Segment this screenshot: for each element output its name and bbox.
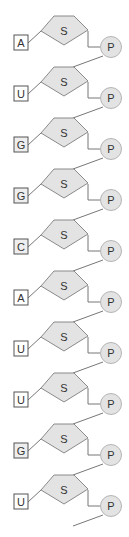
phosphate-label: P	[107, 143, 114, 155]
sugar-phosphate-bond	[88, 286, 100, 302]
phosphodiester-bond	[73, 515, 103, 526]
sugar-label: S	[60, 25, 67, 37]
phosphodiester-bond	[73, 56, 103, 67]
sugar-phosphate-bond	[88, 490, 100, 506]
glycosidic-bond	[28, 235, 41, 247]
base-label: G	[17, 139, 26, 151]
nucleotide-unit: ASP	[14, 16, 122, 67]
phosphate-label: P	[107, 500, 114, 512]
sugar-phosphate-bond	[88, 82, 100, 98]
phosphodiester-bond	[73, 464, 103, 475]
sugar-label: S	[60, 484, 67, 496]
nucleotide-unit: USP	[14, 67, 122, 118]
base-label: A	[17, 292, 25, 304]
sugar-label: S	[60, 178, 67, 190]
phosphodiester-bond	[73, 209, 103, 220]
nucleotide-unit: CSP	[14, 220, 122, 271]
phosphodiester-bond	[73, 107, 103, 118]
phosphate-label: P	[107, 296, 114, 308]
glycosidic-bond	[28, 82, 41, 94]
base-label: A	[17, 37, 25, 49]
phosphodiester-bond	[73, 158, 103, 169]
sugar-label: S	[60, 433, 67, 445]
glycosidic-bond	[28, 439, 41, 451]
phosphodiester-bond	[73, 413, 103, 424]
base-label: U	[17, 394, 25, 406]
nucleotide-unit: USP	[14, 322, 122, 373]
glycosidic-bond	[28, 133, 41, 145]
base-label: G	[17, 190, 26, 202]
phosphodiester-bond	[73, 362, 103, 373]
sugar-label: S	[60, 76, 67, 88]
base-label: G	[17, 445, 26, 457]
glycosidic-bond	[28, 286, 41, 298]
phosphate-label: P	[107, 245, 114, 257]
glycosidic-bond	[28, 388, 41, 400]
sugar-phosphate-bond	[88, 337, 100, 353]
sugar-phosphate-bond	[88, 184, 100, 200]
glycosidic-bond	[28, 337, 41, 349]
sugar-label: S	[60, 229, 67, 241]
nucleotide-unit: USP	[14, 373, 122, 424]
nucleotide-unit: GSP	[14, 118, 122, 169]
sugar-label: S	[60, 280, 67, 292]
phosphate-label: P	[107, 41, 114, 53]
sugar-label: S	[60, 127, 67, 139]
sugar-phosphate-bond	[88, 235, 100, 251]
nucleotide-unit: ASP	[14, 271, 122, 322]
phosphate-label: P	[107, 347, 114, 359]
nucleotide-unit: USP	[14, 475, 122, 526]
base-label: C	[17, 241, 25, 253]
sugar-phosphate-bond	[88, 388, 100, 404]
base-label: U	[17, 496, 25, 508]
nucleotide-unit: GSP	[14, 169, 122, 220]
base-label: U	[17, 88, 25, 100]
sugar-phosphate-bond	[88, 133, 100, 149]
phosphate-label: P	[107, 398, 114, 410]
rna-strand-diagram: ASPUSPGSPGSPCSPASPUSPUSPGSPUSP	[0, 0, 129, 537]
phosphate-label: P	[107, 92, 114, 104]
phosphodiester-bond	[73, 260, 103, 271]
glycosidic-bond	[28, 31, 41, 43]
glycosidic-bond	[28, 490, 41, 502]
nucleotide-unit: GSP	[14, 424, 122, 475]
phosphate-label: P	[107, 194, 114, 206]
phosphodiester-bond	[73, 311, 103, 322]
phosphate-label: P	[107, 449, 114, 461]
sugar-label: S	[60, 331, 67, 343]
sugar-phosphate-bond	[88, 31, 100, 47]
sugar-phosphate-bond	[88, 439, 100, 455]
glycosidic-bond	[28, 184, 41, 196]
sugar-label: S	[60, 382, 67, 394]
base-label: U	[17, 343, 25, 355]
